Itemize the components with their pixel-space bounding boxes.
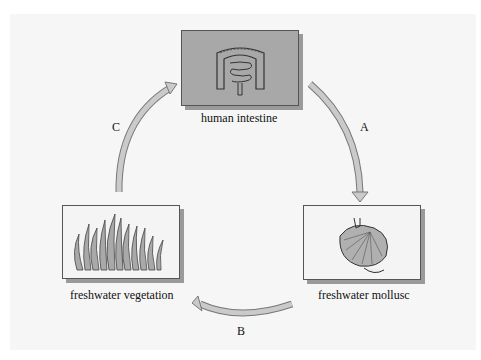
intestine-icon: [182, 31, 298, 105]
node-freshwater-mollusc: [303, 205, 421, 280]
label-freshwater-mollusc: freshwater mollusc: [318, 288, 410, 303]
arrow-a: [310, 84, 368, 202]
edge-label-a: A: [360, 120, 369, 135]
edge-label-b: B: [237, 324, 245, 339]
edge-label-c: C: [112, 120, 120, 135]
label-human-intestine: human intestine: [201, 111, 277, 126]
mollusc-shell-icon: [304, 206, 420, 279]
arrow-b: [192, 296, 292, 313]
arrow-c: [119, 82, 177, 192]
node-freshwater-vegetation: [62, 205, 180, 279]
node-human-intestine: [181, 30, 299, 106]
vegetation-icon: [63, 206, 179, 278]
label-freshwater-vegetation: freshwater vegetation: [70, 288, 174, 303]
